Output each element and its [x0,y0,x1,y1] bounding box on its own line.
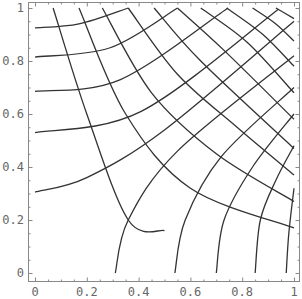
y-tick-label: 0.4 [2,160,24,174]
y-tick-label: 0 [17,266,24,280]
mesh-curve-rising-4 [35,9,278,132]
x-tick-label: 0.6 [180,285,202,299]
mesh-curve-descending-7 [201,8,294,93]
mesh-curve-rising-3 [35,8,228,91]
tick-group [29,3,300,282]
mesh-curve-descending-5 [154,8,294,148]
mesh-curve-rising-6 [115,56,294,273]
x-tick-label: 0.4 [128,285,150,299]
plot-frame [29,3,300,282]
curve-group [35,8,294,273]
y-tick-label: 0.2 [2,213,24,227]
y-tick-label: 1 [17,1,24,15]
x-axis-labels: 00.20.40.60.81 [31,285,297,299]
y-tick-label: 0.6 [2,107,24,121]
y-tick-label: 0.8 [2,54,24,68]
mesh-plot: 00.20.40.60.81 00.20.40.60.81 [0,0,302,299]
mesh-curve-descending-8 [227,8,294,66]
x-tick-label: 0.2 [76,285,98,299]
mesh-curve-rising-1 [35,8,128,28]
mesh-curve-rising-9 [255,146,294,273]
x-tick-label: 1 [290,285,297,299]
mesh-curve-descending-10 [276,8,294,19]
x-tick-label: 0 [31,285,38,299]
mesh-curve-descending-1 [53,8,164,232]
y-axis-labels: 00.20.40.60.81 [2,1,24,280]
x-tick-label: 0.8 [231,285,253,299]
